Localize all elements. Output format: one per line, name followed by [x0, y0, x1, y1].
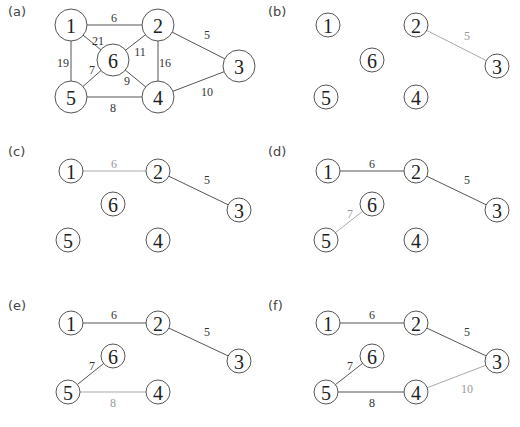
node-label: 4	[153, 230, 163, 252]
edge-2-3: 5	[158, 323, 239, 361]
edge-weight: 6	[111, 157, 117, 171]
node-2: 2	[404, 159, 428, 183]
edge-weight: 5	[204, 325, 210, 339]
node-label: 5	[63, 230, 73, 252]
node-label: 4	[153, 87, 163, 109]
edge-weight: 7	[89, 63, 95, 77]
edge-weight: 6	[111, 11, 117, 25]
node-5: 5	[314, 85, 338, 109]
node-5: 5	[314, 228, 338, 252]
node-label: 2	[411, 15, 421, 37]
edge-line	[416, 361, 497, 392]
edge-weight: 19	[57, 56, 69, 70]
node-1: 1	[55, 9, 87, 41]
edge-2-3: 5	[416, 25, 497, 66]
panel-d: (d)657123456	[268, 144, 509, 252]
edge-weight: 9	[124, 74, 130, 88]
node-2: 2	[404, 13, 428, 37]
edge-weight: 5	[204, 173, 210, 187]
edge-weight: 8	[110, 396, 116, 410]
node-label: 4	[411, 87, 421, 109]
edge-weight: 7	[89, 359, 95, 373]
node-1: 1	[59, 311, 83, 335]
node-label: 1	[323, 313, 333, 335]
node-label: 3	[234, 200, 244, 222]
node-6: 6	[101, 192, 125, 216]
edge-1-2: 6	[328, 157, 416, 171]
edge-weight: 6	[369, 157, 375, 171]
node-1: 1	[316, 311, 340, 335]
node-label: 2	[153, 313, 163, 335]
panel-label: (f)	[268, 298, 283, 313]
node-5: 5	[314, 380, 338, 404]
node-5: 5	[55, 81, 87, 113]
node-6: 6	[101, 344, 125, 368]
edge-5-4: 8	[68, 392, 158, 410]
node-4: 4	[142, 81, 174, 113]
node-4: 4	[146, 228, 170, 252]
node-label: 1	[323, 15, 333, 37]
node-2: 2	[146, 311, 170, 335]
node-5: 5	[56, 228, 80, 252]
node-label: 2	[411, 313, 421, 335]
edge-2-3: 5	[416, 171, 497, 210]
node-label: 3	[492, 200, 502, 222]
node-2: 2	[404, 311, 428, 335]
edge-weight: 6	[369, 308, 375, 322]
node-label: 2	[153, 15, 163, 37]
node-label: 4	[411, 382, 421, 404]
panel-a: (a)621191116579810123456	[8, 4, 255, 115]
node-label: 3	[234, 351, 244, 373]
node-label: 5	[321, 382, 331, 404]
edge-line	[158, 171, 239, 210]
node-label: 1	[66, 15, 76, 37]
node-label: 2	[153, 161, 163, 183]
edge-line	[416, 25, 497, 66]
node-3: 3	[485, 349, 509, 373]
panel-label: (c)	[8, 144, 25, 159]
node-3: 3	[223, 50, 255, 82]
node-1: 1	[59, 159, 83, 183]
panel-c: (c)65123456	[8, 144, 251, 252]
node-label: 4	[153, 382, 163, 404]
edge-weight: 5	[464, 325, 470, 339]
node-6: 6	[360, 344, 384, 368]
panel-label: (b)	[268, 4, 286, 19]
edge-1-2: 6	[71, 308, 158, 323]
node-4: 4	[404, 228, 428, 252]
edge-line	[158, 323, 239, 361]
node-5: 5	[56, 380, 80, 404]
node-label: 5	[321, 230, 331, 252]
node-label: 2	[411, 161, 421, 183]
node-6: 6	[360, 48, 384, 72]
node-label: 6	[367, 346, 377, 368]
node-3: 3	[227, 349, 251, 373]
edge-line	[416, 171, 497, 210]
edge-weight: 5	[204, 28, 210, 42]
node-1: 1	[316, 159, 340, 183]
edge-weight: 7	[347, 207, 353, 221]
node-3: 3	[485, 198, 509, 222]
node-3: 3	[485, 54, 509, 78]
edge-weight: 21	[92, 34, 104, 48]
panel-label: (e)	[8, 298, 26, 313]
node-label: 5	[66, 87, 76, 109]
edge-line	[416, 323, 497, 361]
edge-weight: 16	[159, 56, 171, 70]
node-6: 6	[97, 44, 129, 76]
node-label: 6	[108, 194, 118, 216]
node-label: 5	[63, 382, 73, 404]
node-2: 2	[142, 9, 174, 41]
edge-weight: 6	[111, 308, 117, 322]
edge-weight: 7	[347, 359, 353, 373]
panel-f: (f)657810123456	[268, 298, 509, 410]
node-label: 5	[321, 87, 331, 109]
node-4: 4	[404, 380, 428, 404]
node-label: 3	[234, 56, 244, 78]
node-6: 6	[360, 192, 384, 216]
node-4: 4	[146, 380, 170, 404]
edge-2-3: 5	[416, 323, 497, 361]
edge-5-4: 8	[326, 392, 416, 410]
node-label: 1	[323, 161, 333, 183]
panel-b: (b)5123456	[268, 4, 509, 109]
